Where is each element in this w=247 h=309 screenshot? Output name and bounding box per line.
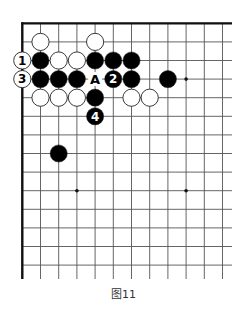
white-stone: 3 [14,71,31,88]
marker-label: A [90,72,100,87]
black-stone: 4 [87,108,104,125]
move-number: 2 [109,72,117,86]
black-stone [87,89,104,106]
white-stone [87,33,104,50]
white-stone [68,52,85,69]
black-stone [32,71,49,88]
white-stone [123,89,140,106]
white-stone [50,89,67,106]
white-stone [32,89,49,106]
move-number: 3 [18,72,26,86]
black-stone [68,71,85,88]
star-point [184,189,188,193]
black-stone [105,52,122,69]
black-stone [123,71,140,88]
black-stone [50,145,67,162]
black-stone [87,52,104,69]
move-number: 1 [18,54,26,68]
star-point [75,189,79,193]
black-stone [123,52,140,69]
star-point [184,77,188,81]
black-stone [50,71,67,88]
move-number: 4 [91,110,99,124]
black-stone [32,52,49,69]
go-board: A 1324 [0,0,247,285]
white-stone [32,33,49,50]
black-stone [159,71,176,88]
board-markers: A [88,72,102,87]
white-stone [50,52,67,69]
white-stone: 1 [14,52,31,69]
white-stone [68,89,85,106]
black-stone: 2 [105,71,122,88]
figure-caption: 图11 [0,285,247,301]
white-stone [141,89,158,106]
